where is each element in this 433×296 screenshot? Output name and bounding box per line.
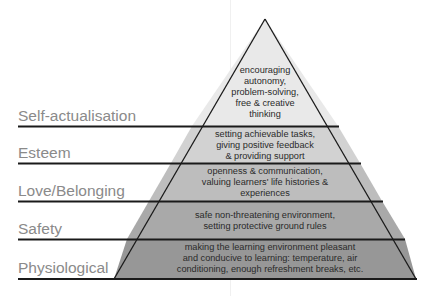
tier-description-self-actualisation: encouraging autonomy, problem-solving, f… <box>205 65 325 120</box>
level-label-safety: Safety <box>18 220 62 238</box>
tier-description-physiological: making the learning environment pleasant… <box>155 242 385 275</box>
tier-description-safety: safe non-threatening environment, settin… <box>160 210 370 232</box>
level-label-love-belonging: Love/Belonging <box>18 182 125 200</box>
level-label-esteem: Esteem <box>18 144 71 162</box>
level-label-physiological: Physiological <box>18 259 108 277</box>
level-label-self-actualisation: Self-actualisation <box>18 107 136 125</box>
tier-description-esteem: setting achievable tasks, giving positiv… <box>190 129 340 162</box>
tier-description-love-belonging: openness & communication, valuing learne… <box>175 166 355 199</box>
